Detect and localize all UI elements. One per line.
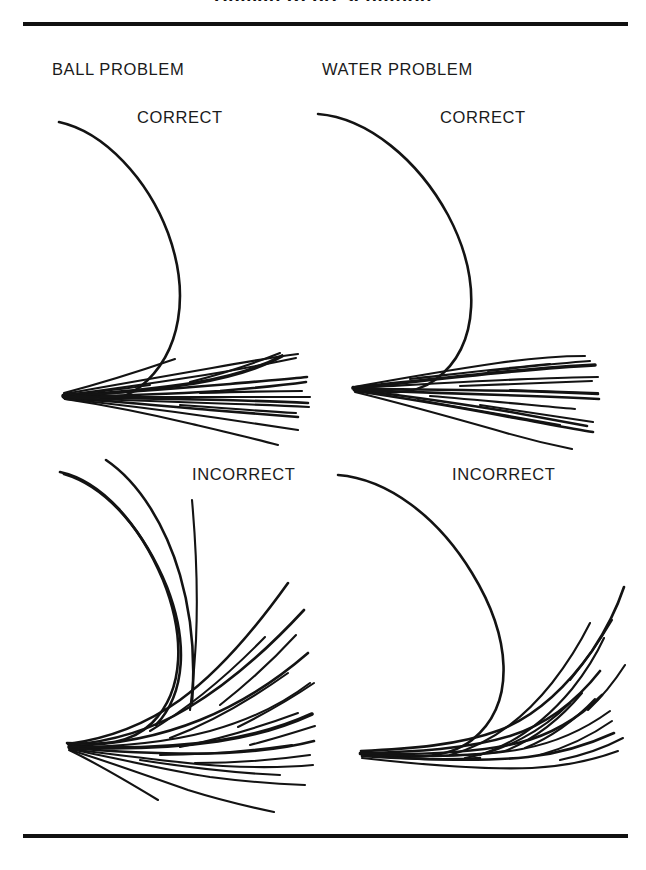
trajectory-fan-ball-incorrect: [68, 460, 315, 812]
drawing-ball-incorrect: [20, 455, 320, 815]
drawing-ball-correct: [30, 105, 320, 450]
figure-root: Human Representation BALL PROBLEM WATER …: [0, 0, 646, 870]
tube-wall-ball-correct: [59, 122, 180, 400]
column-title-water-problem: WATER PROBLEM: [322, 60, 473, 79]
column-title-ball-problem: BALL PROBLEM: [52, 60, 184, 79]
tube-wall-water-incorrect: [338, 475, 504, 759]
trajectory-fan-ball-correct: [63, 353, 310, 445]
figure-title-clipped: Human Representation: [0, 0, 646, 1]
bottom-rule: [23, 834, 628, 838]
drawing-water-correct: [310, 100, 610, 450]
drawing-water-incorrect: [320, 455, 630, 805]
top-rule: [23, 22, 628, 26]
tube-wall-ball-incorrect: [60, 472, 181, 744]
trajectory-fan-water-correct: [353, 356, 599, 449]
tube-wall-water-correct: [318, 114, 471, 392]
